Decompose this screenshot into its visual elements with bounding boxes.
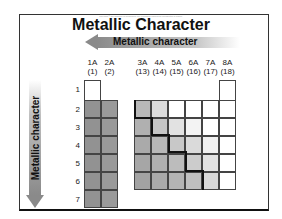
vertical-arrow: Metallic character xyxy=(26,80,44,210)
cell-pblock xyxy=(219,154,236,172)
cell-metal xyxy=(84,118,101,136)
metalloid-staircase-line xyxy=(202,170,204,190)
cell-metal xyxy=(101,154,118,172)
cell-metal xyxy=(84,100,101,118)
horizontal-arrow: Metallic character xyxy=(85,34,240,50)
cell-pblock xyxy=(202,118,219,136)
period-label: 5 xyxy=(70,159,80,168)
cell-pblock xyxy=(219,100,236,118)
page-title: Metallic Character xyxy=(0,16,282,34)
metalloid-staircase-line xyxy=(134,100,136,118)
period-label: 2 xyxy=(70,105,80,114)
cell-metal xyxy=(84,190,101,208)
horizontal-arrow-label: Metallic character xyxy=(113,36,198,47)
cell-pblock xyxy=(168,154,185,172)
arrow-down-icon xyxy=(26,195,44,208)
cell-pblock xyxy=(202,154,219,172)
period-label: 1 xyxy=(70,85,80,94)
cell-He xyxy=(219,80,236,101)
cell-pblock xyxy=(151,172,168,190)
vertical-arrow-label: Metallic character xyxy=(30,96,41,181)
cell-pblock xyxy=(151,154,168,172)
period-label: 3 xyxy=(70,123,80,132)
cell-metal xyxy=(84,154,101,172)
cell-pblock xyxy=(185,100,202,118)
period-label: 7 xyxy=(70,195,80,204)
cell-pblock xyxy=(185,118,202,136)
cell-pblock xyxy=(202,172,219,190)
cell-pblock xyxy=(219,172,236,190)
cell-metal xyxy=(101,118,118,136)
period-label: 4 xyxy=(70,141,80,150)
cell-metal xyxy=(101,172,118,190)
group-label: 1A(1) xyxy=(84,58,101,76)
cell-pblock xyxy=(134,154,151,172)
cell-pblock xyxy=(185,172,202,190)
cell-pblock xyxy=(134,100,151,118)
cell-pblock xyxy=(168,118,185,136)
cell-pblock xyxy=(168,172,185,190)
metalloid-staircase-line xyxy=(185,151,187,170)
cell-metal xyxy=(84,172,101,190)
cell-pblock xyxy=(202,100,219,118)
cell-pblock xyxy=(134,118,151,136)
cell-pblock xyxy=(134,136,151,154)
cell-pblock xyxy=(202,136,219,154)
cell-H xyxy=(84,80,101,101)
cell-metal xyxy=(84,136,101,154)
cell-pblock xyxy=(219,136,236,154)
group-label: 8A(18) xyxy=(218,58,237,76)
cell-metal xyxy=(101,190,118,208)
cell-pblock xyxy=(134,172,151,190)
cell-metal xyxy=(101,100,118,118)
cell-pblock xyxy=(168,100,185,118)
cell-pblock xyxy=(185,136,202,154)
cell-pblock xyxy=(151,136,168,154)
cell-pblock xyxy=(151,100,168,118)
cell-pblock xyxy=(219,118,236,136)
cell-metal xyxy=(101,136,118,154)
group-label: 2A(2) xyxy=(101,58,118,76)
period-label: 6 xyxy=(70,177,80,186)
